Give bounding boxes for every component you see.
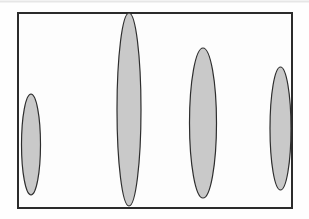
figure-stage <box>0 0 309 219</box>
gray-ellipse-2 <box>117 13 141 206</box>
gray-ellipse-3 <box>190 48 217 198</box>
ellipse-diagram <box>0 0 309 219</box>
gray-ellipse-1 <box>22 94 41 195</box>
gray-ellipse-4 <box>270 67 291 190</box>
frame-rectangle <box>18 13 292 208</box>
